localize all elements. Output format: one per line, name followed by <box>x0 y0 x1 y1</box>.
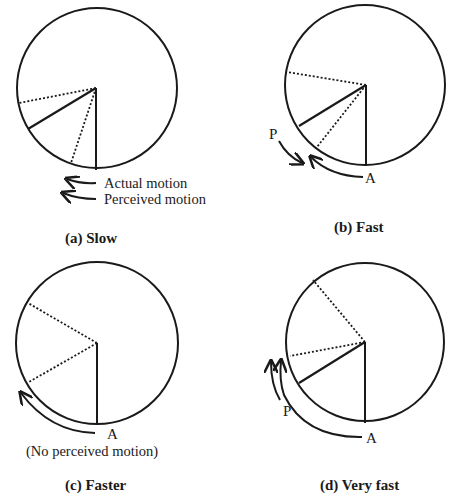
spoke-dotted-upper <box>28 303 97 343</box>
caption-a: (a) Slow <box>65 230 117 247</box>
spoke-dotted-lower <box>71 88 96 163</box>
panel-d-very-fast: P A (d) Very fast <box>271 263 444 494</box>
panel-a-slow: Actual motion Perceived motion (a) Slow <box>17 8 207 247</box>
caption-d: (d) Very fast <box>320 477 399 494</box>
spoke-dotted-lower <box>29 343 97 382</box>
spoke-actual <box>299 85 366 126</box>
label-a: A <box>365 170 376 186</box>
arrow-perceived-motion-icon <box>271 362 280 400</box>
wagon-wheel-diagram: Actual motion Perceived motion (a) Slow … <box>0 0 451 496</box>
panel-b-fast: P A (b) Fast <box>269 5 445 236</box>
arrow-perceived-motion-icon <box>279 141 302 163</box>
spoke-dotted-upper <box>287 72 366 85</box>
label-p: P <box>283 403 291 419</box>
panel-c-faster: A (No perceived motion) (c) Faster <box>16 262 178 494</box>
legend-perceived-motion: Perceived motion <box>104 191 207 207</box>
legend-actual-motion: Actual motion <box>104 175 188 191</box>
caption-c: (c) Faster <box>65 477 127 494</box>
label-p: P <box>269 126 277 142</box>
note-no-perceived-motion: (No perceived motion) <box>26 443 158 460</box>
spoke-actual <box>28 88 96 129</box>
caption-b: (b) Fast <box>334 219 384 236</box>
arrow-perceived-motion-icon <box>63 193 96 199</box>
label-a: A <box>366 430 377 446</box>
spoke-dotted-lower <box>317 85 366 147</box>
arrow-actual-motion-icon <box>67 179 96 183</box>
label-a: A <box>107 426 118 442</box>
spoke-dotted-upper <box>313 280 365 342</box>
